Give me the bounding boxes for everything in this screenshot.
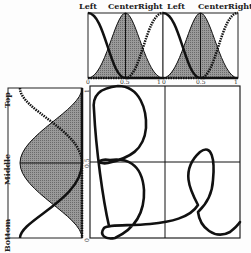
top2-tick-1: 1 (234, 78, 238, 85)
top1-center-label: Center (108, 1, 138, 11)
left-tick-1: 1 (83, 89, 90, 93)
fuzzy-membership-figure: Left Center Right Left Center Right 0 0.… (0, 0, 251, 253)
top2-tick-0: 0 (162, 78, 166, 85)
top1-tick-0: 0 (86, 78, 90, 85)
main-handwriting-panel (90, 86, 240, 238)
left-panel-chart (8, 88, 82, 238)
top-panel-2-chart (163, 13, 238, 78)
top2-right-label: Right (228, 1, 251, 11)
top2-left-label: Left (167, 1, 185, 11)
top1-tick-1: 1 (157, 78, 161, 85)
top1-right-label: Right (138, 1, 163, 11)
left-tick-05: 0.5 (83, 158, 90, 168)
top2-center-label: Center (198, 1, 228, 11)
figure-graphics (0, 0, 251, 253)
left-middle-label: Middle (2, 154, 12, 185)
top1-tick-05: 0.5 (120, 78, 130, 85)
left-bottom-label: Bottom (2, 219, 12, 252)
left-tick-0: 0 (83, 238, 90, 242)
top-panel-1-chart (88, 13, 163, 78)
top1-left-label: Left (79, 1, 97, 11)
left-top-label: Top (2, 92, 12, 108)
top2-tick-05: 0.5 (196, 78, 206, 85)
